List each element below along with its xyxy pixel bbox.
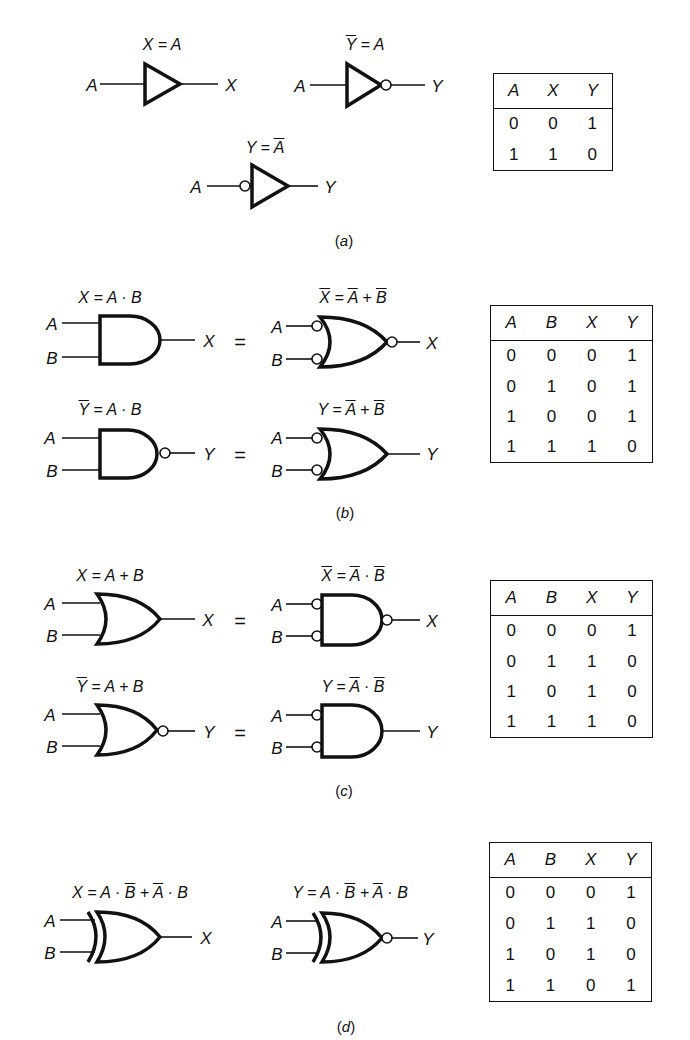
output-label-y: Y (426, 446, 437, 463)
input-label-b: B (46, 739, 57, 756)
equation-xor: X = A · B + A · B (72, 885, 188, 901)
output-label-y: Y (324, 179, 335, 196)
equation-nand: Y = A · B (79, 402, 142, 418)
and-gate-inverted-io (286, 595, 420, 645)
xnor-gate (286, 913, 418, 962)
truth-table-d: ABXY 0001 0110 1010 1101 (489, 842, 652, 1002)
output-label-y: Y (203, 724, 214, 741)
input-label-b: B (44, 945, 55, 962)
equation-or-inverted: X = A + B (319, 290, 386, 306)
input-label-b: B (271, 629, 282, 646)
equivalence-sign: = (234, 723, 246, 743)
input-label-b: B (46, 463, 57, 480)
or-gate-inverted-io (286, 317, 420, 367)
equation-and: X = A · B (78, 290, 141, 306)
output-label-x: X (200, 930, 211, 947)
truth-table-c: ABXY 0001 0110 1010 1110 (490, 580, 653, 738)
output-label-x: X (426, 335, 437, 352)
input-label-a: A (44, 430, 55, 447)
output-label-y: Y (431, 78, 442, 95)
equation-and-inverted-inputs: Y = A · B (322, 679, 385, 695)
equation-inverter: Y = A (346, 37, 385, 53)
input-label-b: B (46, 350, 57, 367)
caption-a: (a) (335, 233, 353, 248)
output-label-y: Y (426, 724, 437, 741)
output-label-x: X (203, 333, 214, 350)
input-label-a: A (271, 319, 282, 336)
input-label-b: B (271, 352, 282, 369)
input-label-a: A (271, 597, 282, 614)
input-label-a: A (271, 430, 282, 447)
or-gate-inverted-inputs (286, 429, 420, 479)
and-gate-inverted-inputs (286, 705, 420, 757)
equation-buffer: X = A (143, 37, 182, 53)
equation-nor: Y = A + B (76, 679, 143, 695)
output-label-x: X (426, 613, 437, 630)
output-label-x: X (225, 77, 236, 94)
input-label-b: B (271, 946, 282, 963)
and-gate (62, 316, 195, 364)
input-label-b: B (271, 740, 282, 757)
input-label-a: A (44, 913, 55, 930)
truth-table-a: AXY 001 110 (493, 73, 613, 171)
inverter-gate (310, 64, 425, 106)
nor-gate (62, 705, 195, 755)
caption-b: (b) (336, 505, 354, 520)
input-label-a: A (271, 914, 282, 931)
equivalence-sign: = (234, 445, 246, 465)
equivalence-sign: = (234, 611, 246, 631)
input-label-a: A (271, 708, 282, 725)
input-label-b: B (46, 628, 57, 645)
xor-gate (60, 912, 192, 962)
caption-c: (c) (335, 783, 353, 798)
caption-d: (d) (337, 1019, 355, 1034)
equation-and-inverted: X = A · B (321, 568, 384, 584)
input-label-a: A (44, 707, 55, 724)
equation-or-inverted-inputs: Y = A + B (317, 402, 384, 418)
output-label-x: X (202, 612, 213, 629)
input-label-a: A (46, 316, 57, 333)
input-label-a: A (294, 78, 305, 95)
or-gate (62, 594, 195, 644)
equation-or: X = A + B (76, 568, 143, 584)
output-label-y: Y (422, 931, 433, 948)
input-label-b: B (271, 463, 282, 480)
equation-xnor: Y = A · B + A · B (292, 885, 408, 901)
nand-gate (62, 430, 195, 478)
truth-table-b: ABXY 0001 0101 1001 1110 (490, 305, 653, 463)
input-label-a: A (190, 179, 201, 196)
output-label-y: Y (203, 446, 214, 463)
input-label-a: A (44, 596, 55, 613)
equivalence-sign: = (234, 332, 246, 352)
equation-input-bubble-inverter: Y = A (246, 140, 285, 156)
inverter-input-bubble-gate (207, 165, 318, 207)
input-label-a: A (86, 77, 97, 94)
buffer-gate (100, 64, 218, 104)
